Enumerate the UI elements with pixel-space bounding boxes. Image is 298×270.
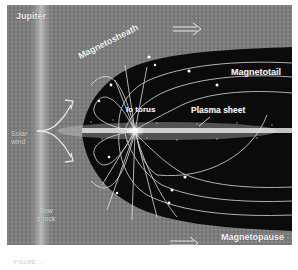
label-plasma-sheet: Plasma sheet (191, 106, 245, 115)
label-magnetopause: Magnetopause (221, 233, 284, 242)
label-jupiter: Jupiter (16, 12, 46, 21)
label-magnetotail: Magnetotail (231, 68, 281, 77)
label-bow-shock: Bow shock (34, 207, 58, 223)
jupiter-planet (132, 128, 137, 133)
label-solar-wind: Solar wind (11, 130, 31, 146)
label-io-torus: Io torus (126, 106, 155, 114)
jupiter-magnetosphere-diagram: Jupiter Magnetosheath Magnetotail Io tor… (7, 5, 292, 245)
figure-caption: FIGURE ... (14, 259, 43, 265)
